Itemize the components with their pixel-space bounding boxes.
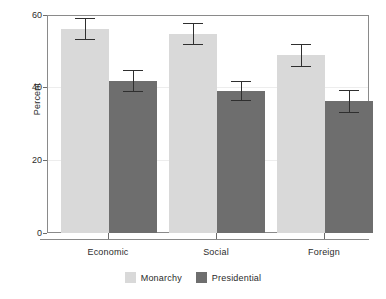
x-tick-mark-foreign [324, 233, 325, 239]
bar-monarchy-social [169, 34, 217, 233]
y-tick-label-0: 0 [18, 229, 42, 238]
errorbar-presidential-social [231, 81, 251, 101]
x-tick-mark-social [216, 233, 217, 239]
x-tick-label-foreign: Foreign [279, 247, 369, 257]
errorbar-cap-bottom [231, 100, 251, 101]
x-tick-label-social: Social [171, 247, 261, 257]
y-axis-label: Percent [32, 64, 42, 134]
errorbar-monarchy-social [183, 23, 203, 45]
y-tick-mark-0 [43, 233, 47, 234]
errorbar-cap-top [291, 44, 311, 45]
errorbar-cap-top [183, 23, 203, 24]
errorbar-stem [301, 44, 302, 67]
errorbar-cap-top [123, 70, 143, 71]
legend-item-presidential: Presidential [196, 272, 261, 283]
errorbar-stem [193, 23, 194, 45]
errorbar-cap-bottom [339, 112, 359, 113]
y-tick-label-20: 20 [18, 156, 42, 165]
bars-layer [47, 15, 369, 233]
errorbar-monarchy-economic [75, 18, 95, 40]
legend-item-monarchy: Monarchy [125, 272, 182, 283]
errorbar-cap-top [75, 18, 95, 19]
legend-swatch-presidential [196, 272, 207, 283]
errorbar-monarchy-foreign [291, 44, 311, 67]
y-tick-label-60: 60 [18, 11, 42, 20]
legend-swatch-monarchy [125, 272, 136, 283]
bar-monarchy-economic [61, 29, 109, 233]
legend-label-presidential: Presidential [212, 273, 261, 283]
errorbar-cap-top [231, 81, 251, 82]
errorbar-cap-top [339, 90, 359, 91]
errorbar-cap-bottom [123, 91, 143, 92]
errorbar-presidential-economic [123, 70, 143, 92]
legend-label-monarchy: Monarchy [141, 273, 182, 283]
bar-presidential-economic [109, 81, 157, 233]
errorbar-presidential-foreign [339, 90, 359, 113]
y-tick-label-40: 40 [18, 83, 42, 92]
errorbar-cap-bottom [183, 44, 203, 45]
errorbar-cap-bottom [291, 66, 311, 67]
bar-monarchy-foreign [277, 55, 325, 233]
errorbar-stem [349, 90, 350, 113]
bar-chart: Percent 60 40 20 0 [0, 0, 386, 299]
x-tick-label-economic: Economic [63, 247, 153, 257]
errorbar-stem [241, 81, 242, 101]
x-axis-line [40, 239, 369, 240]
bar-presidential-foreign [325, 101, 373, 233]
errorbar-stem [133, 70, 134, 92]
errorbar-cap-bottom [75, 39, 95, 40]
errorbar-stem [85, 18, 86, 40]
bar-presidential-social [217, 91, 265, 233]
x-tick-mark-economic [108, 233, 109, 239]
legend: Monarchy Presidential [0, 272, 386, 283]
